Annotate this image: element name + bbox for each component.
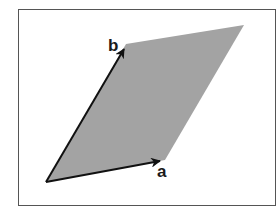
vector-a-label: a (157, 162, 167, 181)
parallelogram-diagram: a b (0, 0, 280, 214)
vector-b-label: b (108, 36, 118, 55)
